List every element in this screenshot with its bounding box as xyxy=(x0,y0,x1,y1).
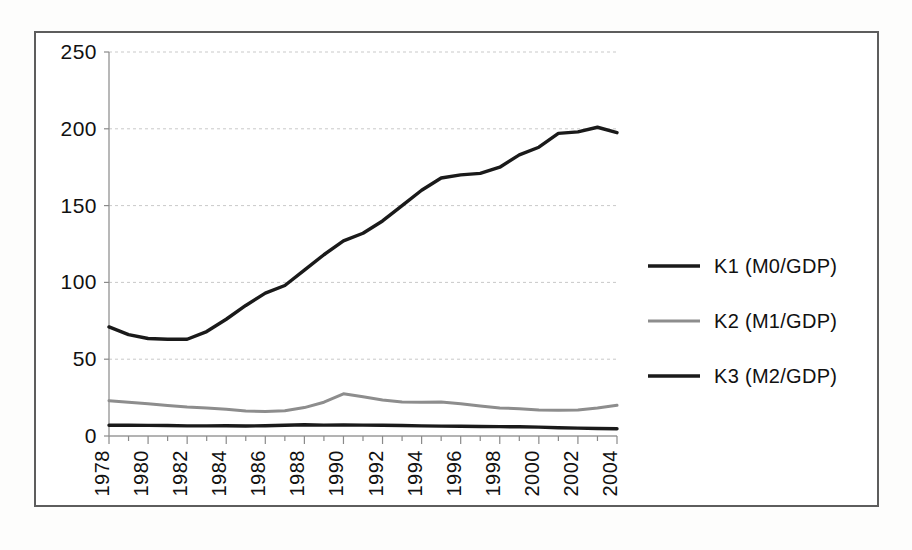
y-tick-label-0: 0 xyxy=(85,424,97,447)
x-tick-label-2000: 2000 xyxy=(521,450,543,497)
x-tick-label-1988: 1988 xyxy=(286,450,308,497)
series-line-1 xyxy=(109,425,617,429)
x-tick-label-2002: 2002 xyxy=(560,450,582,497)
x-tick-label-1996: 1996 xyxy=(443,450,465,497)
line-chart: 050100150200250 197819801982198419861988… xyxy=(36,33,877,505)
y-tick-label-200: 200 xyxy=(60,117,97,140)
figure-root: 050100150200250 197819801982198419861988… xyxy=(0,0,912,550)
gridlines-group xyxy=(109,52,617,359)
y-tick-label-100: 100 xyxy=(60,270,97,293)
legend-label-3: K3 (M2/GDP) xyxy=(714,365,837,387)
x-tick-label-1998: 1998 xyxy=(482,450,504,497)
axes-group xyxy=(109,52,617,436)
legend-label-1: K1 (M0/GDP) xyxy=(714,255,837,277)
series-line-2 xyxy=(109,394,617,412)
x-axis-tick-labels: 1978198019821984198619881990199219941996… xyxy=(91,436,621,497)
x-tick-label-1990: 1990 xyxy=(325,450,347,497)
x-tick-label-1980: 1980 xyxy=(130,450,152,497)
y-tick-label-150: 150 xyxy=(60,194,97,217)
legend-label-2: K2 (M1/GDP) xyxy=(714,310,837,332)
x-tick-label-1986: 1986 xyxy=(247,450,269,497)
x-tick-label-1984: 1984 xyxy=(208,450,230,497)
x-tick-label-1982: 1982 xyxy=(169,450,191,497)
x-tick-label-1978: 1978 xyxy=(91,450,113,497)
y-tick-label-50: 50 xyxy=(73,347,97,370)
x-tick-label-1994: 1994 xyxy=(404,450,426,497)
series-lines-group xyxy=(109,127,617,429)
x-tick-label-2004: 2004 xyxy=(599,450,621,497)
legend: K1 (M0/GDP)K2 (M1/GDP)K3 (M2/GDP) xyxy=(648,255,837,387)
series-line-3 xyxy=(109,127,617,339)
y-tick-label-250: 250 xyxy=(60,40,97,63)
chart-frame: 050100150200250 197819801982198419861988… xyxy=(34,31,879,507)
y-axis-tick-labels: 050100150200250 xyxy=(60,40,109,447)
x-tick-label-1992: 1992 xyxy=(365,450,387,497)
